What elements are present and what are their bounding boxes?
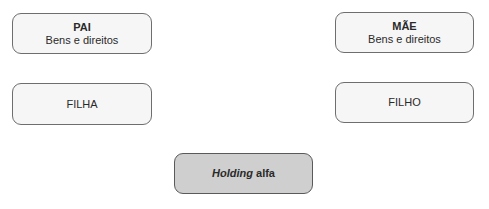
node-mae-subtitle: Bens e direitos [368, 33, 441, 46]
node-filha: FILHA [12, 83, 152, 125]
node-pai-title: PAI [73, 21, 91, 34]
node-holding-label: Holding alfa [212, 167, 275, 180]
node-holding: Holding alfa [174, 153, 313, 194]
node-mae: MÃE Bens e direitos [335, 12, 474, 53]
node-filha-label: FILHA [66, 98, 97, 111]
node-holding-label-rest: alfa [253, 167, 275, 179]
node-pai: PAI Bens e direitos [12, 13, 152, 54]
node-holding-label-italic: Holding [212, 167, 253, 179]
node-filho: FILHO [335, 82, 474, 123]
node-pai-subtitle: Bens e direitos [46, 34, 119, 47]
node-mae-title: MÃE [392, 20, 416, 33]
node-filho-label: FILHO [388, 96, 420, 109]
